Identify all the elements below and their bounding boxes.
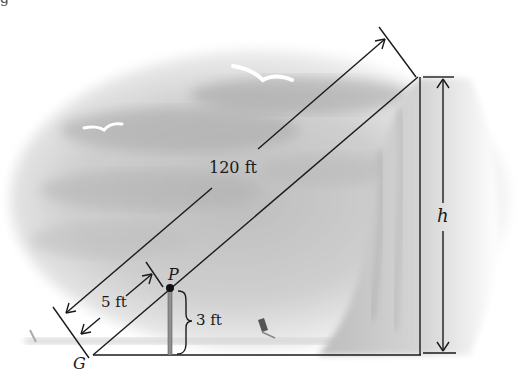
label-h: h: [437, 207, 449, 225]
caption-fragment: g: [0, 0, 9, 5]
pole: [168, 290, 172, 355]
diagram-svg: [0, 0, 525, 390]
label-3-ft: 3 ft: [196, 313, 222, 328]
label-5-ft: 5 ft: [101, 295, 127, 310]
label-p: P: [168, 267, 179, 283]
extension-tick-top: [379, 27, 416, 77]
diagram-canvas: g 120 ft 5 ft 3 ft h G P: [0, 0, 525, 390]
label-g: G: [73, 356, 86, 372]
label-120-ft: 120 ft: [209, 160, 257, 176]
point-p-dot: [166, 284, 174, 292]
